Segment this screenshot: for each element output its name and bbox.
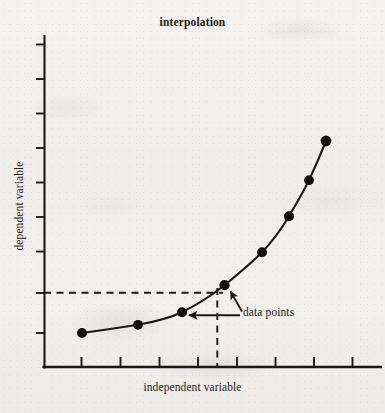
x-axis-label: independent variable	[0, 381, 385, 393]
axis-lines	[44, 36, 382, 368]
data-point	[219, 280, 229, 290]
data-points-annotation-label: data points	[243, 306, 294, 318]
interpolation-curve	[82, 141, 326, 333]
y-axis-label: dependent variable	[13, 146, 25, 266]
figure-root: interpolation	[0, 0, 385, 413]
data-point	[321, 136, 332, 147]
data-point	[257, 247, 267, 257]
data-point	[77, 328, 87, 338]
annotation-arrow-upper	[231, 292, 243, 312]
interpolation-chart	[0, 0, 385, 413]
data-point	[177, 307, 187, 317]
data-point	[284, 211, 294, 221]
interpolation-guides	[44, 288, 223, 366]
data-point	[304, 175, 314, 185]
data-point	[133, 320, 143, 330]
